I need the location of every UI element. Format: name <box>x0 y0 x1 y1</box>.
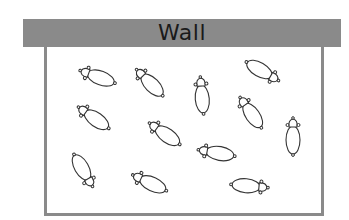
sheep-group <box>67 55 300 197</box>
sheep-icon <box>234 92 268 133</box>
sheep-icon <box>193 75 210 116</box>
sheep-icon <box>196 143 238 164</box>
sheep-icon <box>286 117 300 157</box>
sheep-icon <box>131 64 169 102</box>
sheep-icon <box>67 150 99 191</box>
sheep-icon <box>73 101 114 135</box>
sheep-icon <box>77 63 119 90</box>
sheep-icon <box>144 117 185 151</box>
sheep-icon <box>242 55 283 87</box>
sheep-icon <box>229 177 270 194</box>
sheep-icon <box>129 168 171 197</box>
sheep-field <box>0 0 349 220</box>
